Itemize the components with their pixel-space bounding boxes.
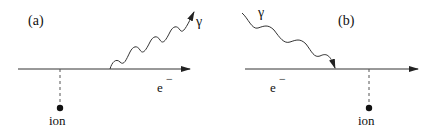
panel-a-label: (a) [28, 13, 44, 29]
ion-dot-a [57, 105, 63, 111]
electron-label-b: e [270, 80, 276, 95]
electron-sup-a: − [166, 72, 173, 86]
ion-label-b: ion [358, 113, 375, 128]
electron-sup-b: − [279, 72, 286, 86]
panel-b: (b) γ e − ion [242, 5, 418, 128]
panel-a: (a) γ e − ion [18, 12, 202, 128]
photon-wave-a [110, 12, 194, 69]
photon-label-a: γ [195, 14, 202, 29]
panel-b-label: (b) [338, 13, 355, 29]
photon-wave-b [242, 13, 335, 68]
ion-dot-b [366, 105, 372, 111]
electron-label-a: e [157, 80, 163, 95]
diagram-canvas: (a) γ e − ion (b) γ e − ion [0, 0, 435, 135]
photon-label-b: γ [257, 5, 264, 20]
ion-label-a: ion [49, 113, 66, 128]
